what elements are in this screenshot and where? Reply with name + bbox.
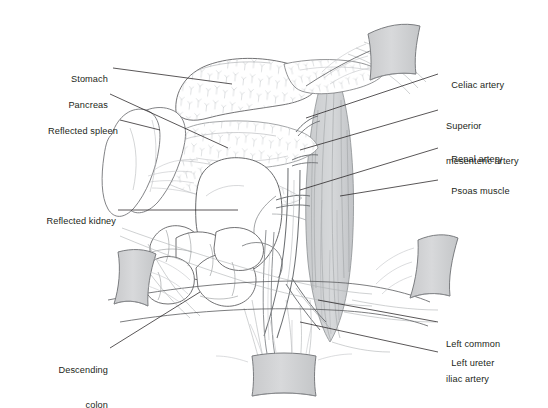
label-stomach: Stomach	[0, 62, 108, 85]
label-celiac-artery: Celiac artery	[446, 68, 546, 91]
label-psoas-muscle: Psoas muscle	[446, 174, 546, 197]
label-superior-mesenteric-artery: Superior mesenteric artery	[446, 98, 548, 179]
label-descending-colon: Descending colon	[0, 342, 108, 408]
label-reflected-kidney: Reflected kidney	[0, 204, 116, 227]
retractor-top	[368, 24, 420, 80]
label-pancreas: Pancreas	[0, 88, 108, 111]
label-renal-artery: Renal artery	[446, 142, 546, 165]
label-reflected-spleen: Reflected spleen	[0, 114, 118, 137]
label-left-ureter: Left ureter	[446, 346, 546, 369]
retractor-bottom	[252, 353, 316, 396]
